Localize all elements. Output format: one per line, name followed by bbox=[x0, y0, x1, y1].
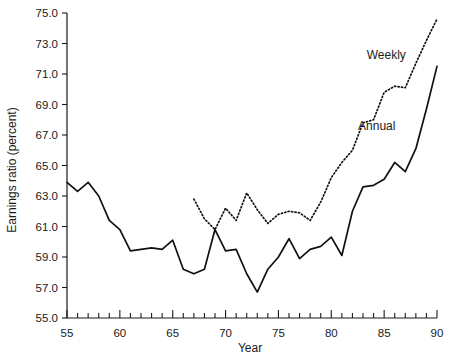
earnings-ratio-line-chart: 55.057.059.061.063.065.067.069.071.073.0… bbox=[0, 0, 454, 360]
y-axis-tick-labels: 55.057.059.061.063.065.067.069.071.073.0… bbox=[36, 7, 58, 324]
x-axis-title: Year bbox=[238, 341, 262, 355]
y-tick-label: 75.0 bbox=[36, 7, 58, 19]
chart-container: 55.057.059.061.063.065.067.069.071.073.0… bbox=[0, 0, 454, 360]
y-tick-label: 73.0 bbox=[36, 38, 58, 50]
x-tick-label: 70 bbox=[219, 327, 232, 339]
x-tick-label: 55 bbox=[61, 327, 74, 339]
x-axis-tick-labels: 5560657075808590 bbox=[61, 327, 444, 339]
y-tick-label: 65.0 bbox=[36, 160, 58, 172]
x-axis-tick-marks bbox=[67, 310, 437, 318]
y-tick-label: 69.0 bbox=[36, 99, 58, 111]
series-annotations: Weekly Annual bbox=[358, 48, 406, 134]
y-tick-label: 71.0 bbox=[36, 68, 58, 80]
x-tick-label: 85 bbox=[378, 327, 391, 339]
x-tick-label: 90 bbox=[431, 327, 444, 339]
y-tick-label: 63.0 bbox=[36, 190, 58, 202]
x-tick-label: 60 bbox=[113, 327, 126, 339]
y-tick-label: 61.0 bbox=[36, 221, 58, 233]
x-tick-label: 65 bbox=[166, 327, 179, 339]
x-tick-label: 75 bbox=[272, 327, 285, 339]
series-label-weekly: Weekly bbox=[367, 48, 406, 62]
y-tick-label: 59.0 bbox=[36, 251, 58, 263]
y-axis-tick-marks bbox=[62, 13, 67, 318]
y-tick-label: 57.0 bbox=[36, 282, 58, 294]
series-label-annual: Annual bbox=[358, 119, 395, 133]
x-tick-label: 80 bbox=[325, 327, 338, 339]
y-tick-label: 67.0 bbox=[36, 129, 58, 141]
y-axis-title: Earnings ratio (percent) bbox=[5, 107, 19, 232]
y-tick-label: 55.0 bbox=[36, 312, 58, 324]
